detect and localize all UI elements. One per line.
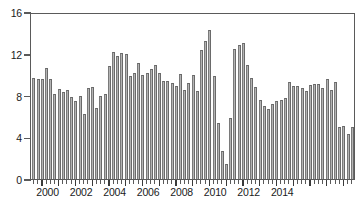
bar — [116, 56, 119, 179]
x-axis-tick — [196, 180, 197, 184]
y-axis-tick-label: 8 — [0, 91, 22, 102]
bar — [87, 88, 90, 179]
bar — [246, 65, 249, 179]
x-axis-tick — [326, 180, 327, 186]
bar — [347, 134, 350, 179]
x-axis-tick — [171, 180, 172, 184]
bar — [154, 65, 157, 179]
bar — [99, 96, 102, 180]
x-axis-tick — [309, 180, 310, 186]
x-axis-tick — [188, 180, 189, 184]
bar — [158, 73, 161, 179]
bar — [296, 86, 299, 179]
bar-chart: 0481216 20002002200420062008201020122014 — [0, 0, 363, 206]
x-axis-tick — [159, 180, 160, 186]
bar — [83, 114, 86, 179]
bar — [250, 78, 253, 179]
x-axis-tick — [92, 180, 93, 186]
x-axis-tick — [150, 180, 151, 184]
bar — [120, 53, 123, 179]
x-axis-tick — [117, 180, 118, 184]
x-axis-tick — [280, 180, 281, 184]
x-axis-tick — [330, 180, 331, 184]
bar — [280, 100, 283, 179]
x-axis-tick — [226, 180, 227, 186]
y-axis-tick-label: 0 — [0, 175, 22, 186]
x-axis-tick — [100, 180, 101, 184]
x-axis-tick — [138, 180, 139, 184]
x-axis-tick-label: 2004 — [103, 187, 126, 198]
bar — [133, 73, 136, 179]
bar — [301, 88, 304, 179]
x-axis-tick — [272, 180, 273, 184]
x-axis-tick — [129, 180, 130, 184]
x-axis-tick — [259, 180, 260, 186]
x-axis-tick — [180, 180, 181, 184]
y-axis-tick-label: 4 — [0, 133, 22, 144]
x-axis-tick — [146, 180, 147, 184]
x-axis-tick — [297, 180, 298, 184]
x-axis-tick — [167, 180, 168, 184]
plot-area — [30, 13, 355, 180]
x-axis-tick — [213, 180, 214, 184]
bar — [321, 88, 324, 179]
x-axis-tick — [288, 180, 289, 184]
bar — [338, 127, 341, 179]
bar — [62, 92, 65, 179]
bar — [267, 109, 270, 179]
bar — [275, 101, 278, 179]
bar — [259, 100, 262, 179]
x-axis-tick — [154, 180, 155, 184]
x-axis-tick — [238, 180, 239, 184]
bar — [330, 90, 333, 179]
y-axis-tick-label: 12 — [0, 50, 22, 61]
x-axis-tick — [301, 180, 302, 184]
bar — [208, 30, 211, 179]
bar — [196, 91, 199, 179]
bar — [351, 127, 354, 179]
x-axis-tick — [251, 180, 252, 184]
bar — [334, 82, 337, 179]
x-axis-tick — [351, 180, 352, 184]
bar — [179, 74, 182, 179]
bar — [95, 108, 98, 179]
x-axis-tick — [343, 180, 344, 186]
bar — [263, 106, 266, 179]
bar — [326, 79, 329, 179]
x-axis-tick — [205, 180, 206, 184]
bar — [309, 85, 312, 179]
x-axis-tick — [37, 180, 38, 184]
bar — [229, 118, 232, 179]
x-axis-tick — [104, 180, 105, 184]
bar — [183, 90, 186, 179]
x-axis-tick — [284, 180, 285, 184]
bar — [74, 101, 77, 179]
x-axis-tick — [62, 180, 63, 184]
bar — [104, 94, 107, 179]
bar — [292, 86, 295, 179]
bar — [112, 52, 115, 179]
bar — [317, 84, 320, 179]
x-axis-tick-label: 2014 — [271, 187, 294, 198]
bar — [217, 123, 220, 179]
bar — [342, 126, 345, 179]
bar — [313, 84, 316, 179]
bar — [53, 94, 56, 179]
x-axis-tick — [133, 180, 134, 184]
bar — [150, 69, 153, 179]
x-axis-tick — [66, 180, 67, 184]
bar — [125, 54, 128, 179]
bar — [146, 73, 149, 179]
x-axis-tick — [217, 180, 218, 184]
bar — [213, 76, 216, 179]
bar — [141, 75, 144, 179]
bar — [187, 83, 190, 179]
bar — [32, 78, 35, 179]
x-axis-tick — [50, 180, 51, 184]
x-axis-tick — [87, 180, 88, 184]
y-axis-tick-label: 16 — [0, 8, 22, 19]
bar — [204, 41, 207, 179]
x-axis-tick — [230, 180, 231, 184]
bar — [200, 50, 203, 179]
x-axis-tick — [184, 180, 185, 184]
